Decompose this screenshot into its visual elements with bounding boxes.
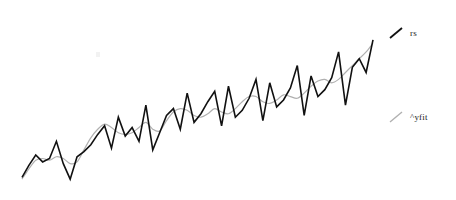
plot-svg	[0, 0, 385, 200]
chart-figure: rs ^yfit	[0, 0, 456, 200]
diagonal-line-swatch-icon	[388, 109, 404, 125]
legend-entry-rs[interactable]: rs	[388, 22, 456, 44]
legend-entry-yfit[interactable]: ^yfit	[388, 106, 456, 128]
legend: rs ^yfit	[388, 0, 456, 200]
series-line-yfit	[22, 43, 373, 179]
plot-area	[0, 0, 385, 200]
legend-label-yfit: ^yfit	[410, 112, 428, 122]
diagonal-line-swatch-icon	[388, 25, 404, 41]
legend-label-rs: rs	[410, 28, 417, 38]
series-line-rs	[22, 40, 373, 179]
